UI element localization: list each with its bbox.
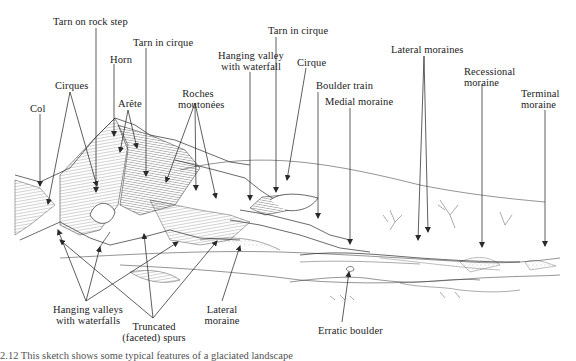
label-terminal-line2: moraine bbox=[521, 99, 560, 110]
label-terminal-line1: Terminal bbox=[521, 88, 560, 99]
label-roches-line2: moutonées bbox=[178, 99, 218, 110]
label-terminal-moraine: Terminal moraine bbox=[521, 88, 560, 110]
mountain-range bbox=[15, 118, 560, 300]
label-cirques: Cirques bbox=[55, 80, 88, 91]
label-arete: Arête bbox=[118, 98, 142, 109]
label-hanging-valleys-line1: Hanging valleys bbox=[44, 304, 132, 315]
label-truncated-line2: (faceted) spurs bbox=[117, 332, 191, 343]
label-erratic-boulder: Erratic boulder bbox=[318, 325, 383, 336]
label-lateral-moraine: Lateral moraine bbox=[200, 304, 244, 326]
label-tarn-in-cirque-2: Tarn in cirque bbox=[268, 25, 328, 36]
label-boulder-train: Boulder train bbox=[316, 80, 373, 91]
label-lateral-moraine-line1: Lateral bbox=[200, 304, 244, 315]
label-col: Col bbox=[30, 103, 45, 114]
label-truncated-line1: Truncated bbox=[117, 321, 191, 332]
label-hanging-valley-line1: Hanging valley bbox=[204, 50, 298, 61]
label-hanging-valley-line2: with waterfall bbox=[204, 61, 298, 72]
label-truncated-spurs: Truncated (faceted) spurs bbox=[117, 321, 191, 343]
label-recessional-moraine: Recessional moraine bbox=[464, 66, 515, 88]
label-roches-line1: Roches bbox=[178, 88, 218, 99]
label-recessional-line2: moraine bbox=[464, 77, 515, 88]
label-tarn-in-cirque-1: Tarn in cirque bbox=[133, 37, 193, 48]
label-roches-moutonnees: Roches moutonées bbox=[178, 88, 218, 110]
label-lateral-moraine-line2: moraine bbox=[200, 315, 244, 326]
label-cirque: Cirque bbox=[297, 57, 326, 68]
label-recessional-line1: Recessional bbox=[464, 66, 515, 77]
label-hanging-valley-waterfall: Hanging valley with waterfall bbox=[204, 50, 298, 72]
label-lateral-moraines: Lateral moraines bbox=[391, 44, 463, 55]
label-medial-moraine: Medial moraine bbox=[325, 96, 393, 107]
figure-caption: 2.12 This sketch shows some typical feat… bbox=[0, 350, 293, 361]
label-tarn-on-rock-step: Tarn on rock step bbox=[53, 16, 128, 27]
label-horn: Horn bbox=[110, 54, 132, 65]
